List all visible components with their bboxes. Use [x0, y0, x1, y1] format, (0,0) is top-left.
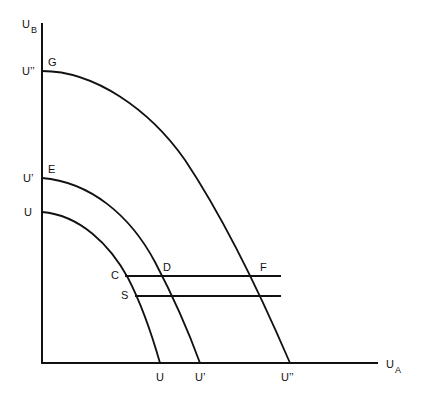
curve-outer-u-double-prime [42, 71, 290, 363]
x-tick-u-double-prime: U’’ [281, 371, 294, 383]
x-tick-u: U [156, 371, 164, 383]
point-g: G [48, 56, 57, 68]
y-tick-u-double-prime: U’’ [22, 65, 35, 77]
point-e: E [48, 163, 55, 175]
utility-possibility-diagram: U B U A U’’ U’ U U U’ U’’ G E C D F S [0, 0, 422, 398]
curve-middle-u-prime [42, 178, 200, 363]
x-axis-label-sub: A [395, 365, 401, 375]
y-tick-u-prime: U’ [23, 172, 33, 184]
point-c: C [111, 269, 119, 281]
point-s: S [121, 289, 128, 301]
y-axis-label: U [22, 18, 30, 30]
y-tick-u: U [24, 206, 32, 218]
point-d: D [163, 261, 171, 273]
point-f: F [260, 261, 267, 273]
x-tick-u-prime: U’ [195, 371, 205, 383]
x-axis-label: U [386, 358, 394, 370]
curve-inner-u [42, 212, 160, 363]
y-axis-label-sub: B [31, 25, 37, 35]
